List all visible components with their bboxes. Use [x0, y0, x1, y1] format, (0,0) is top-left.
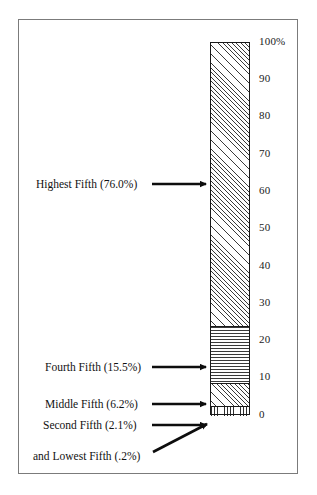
- bar-segment-fourth-fifth: [211, 327, 249, 385]
- bar-segment-highest-fifth: [211, 43, 249, 327]
- axis-tick-60: 60: [259, 185, 270, 196]
- callout-fourth-fifth: Fourth Fifth (15.5%): [45, 361, 141, 373]
- axis-tick-20: 20: [259, 334, 270, 345]
- callout-middle-fifth: Middle Fifth (6.2%): [45, 398, 138, 410]
- axis-tick-90: 90: [259, 73, 270, 84]
- axis-tick-40: 40: [259, 260, 270, 271]
- axis-tick-70: 70: [259, 148, 270, 159]
- bar-segment-lowest-fifth: [211, 415, 249, 416]
- y-axis: 100% 90 80 70 60 50 40 30 20 10 0: [252, 0, 298, 495]
- axis-tick-30: 30: [259, 297, 270, 308]
- callout-lowest-fifth: and Lowest Fifth (.2%): [33, 450, 140, 462]
- callout-highest-fifth: Highest Fifth (76.0%): [36, 178, 137, 190]
- axis-tick-50: 50: [259, 222, 270, 233]
- figure-stacked-bar-chart: 100% 90 80 70 60 50 40 30 20 10 0 Highes…: [0, 0, 317, 495]
- bar-segment-second-fifth: [211, 407, 249, 415]
- axis-tick-0: 0: [259, 409, 265, 420]
- bar-segment-middle-fifth: [211, 384, 249, 407]
- stacked-bar: [210, 42, 250, 415]
- axis-tick-10: 10: [259, 371, 270, 382]
- axis-tick-100: 100%: [259, 36, 285, 47]
- callout-second-fifth: Second Fifth (2.1%): [43, 419, 137, 431]
- axis-tick-80: 80: [259, 110, 270, 121]
